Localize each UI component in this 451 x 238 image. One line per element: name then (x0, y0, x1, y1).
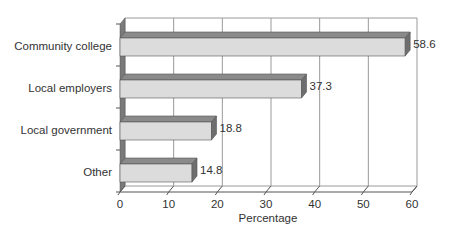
bar (120, 74, 307, 98)
value-label: 58.6 (413, 38, 435, 50)
bar (120, 158, 197, 182)
category-labels: Community collegeLocal employersLocal go… (14, 40, 113, 178)
category-label: Other (83, 166, 112, 178)
value-label: 14.8 (200, 164, 222, 176)
value-label: 18.8 (219, 122, 241, 134)
x-tick-label: 30 (260, 198, 273, 210)
x-axis: 0102030405060 (117, 186, 419, 210)
category-label: Community college (14, 40, 112, 52)
x-tick-label: 50 (357, 198, 370, 210)
bar-chart: 0102030405060 Community collegeLocal emp… (0, 0, 451, 238)
x-tick-label: 0 (117, 198, 123, 210)
bar (120, 116, 216, 140)
value-labels: 58.637.318.814.8 (200, 38, 436, 176)
x-tick-label: 20 (211, 198, 224, 210)
x-axis-title: Percentage (239, 212, 298, 224)
x-tick-label: 60 (406, 198, 419, 210)
category-label: Local employers (28, 82, 112, 94)
value-label: 37.3 (310, 80, 332, 92)
bar (120, 32, 410, 56)
x-tick-label: 10 (162, 198, 175, 210)
x-tick-label: 40 (308, 198, 321, 210)
category-label: Local government (21, 124, 113, 136)
bars (120, 32, 410, 182)
